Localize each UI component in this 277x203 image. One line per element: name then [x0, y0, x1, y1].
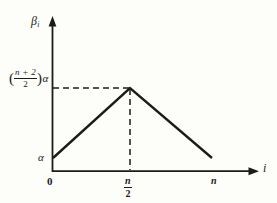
- beta-series-line: [53, 88, 212, 158]
- x-axis-label: i: [263, 162, 266, 174]
- half-n-fraction: n 2: [124, 176, 132, 199]
- x-axis: [53, 167, 260, 175]
- x-tick-label-half-n: n 2: [124, 176, 132, 199]
- y-axis-label: βi: [31, 15, 40, 29]
- peak-fraction-denominator: 2: [22, 79, 29, 89]
- peak-alpha-symbol: α: [43, 73, 49, 84]
- half-n-numerator: n: [124, 176, 132, 187]
- chart-plot-area: [0, 0, 277, 203]
- y-tick-label-peak: ( n + 2 2 ) α: [9, 68, 48, 89]
- peak-fraction: n + 2 2: [14, 68, 37, 89]
- peak-fraction-numerator: n + 2: [14, 68, 37, 78]
- origin-label: 0: [47, 176, 53, 187]
- peak-paren-close: ): [37, 71, 42, 86]
- y-axis-label-subscript: i: [37, 20, 39, 29]
- x-tick-label-n: n: [211, 176, 217, 186]
- chart-figure: βi i α 0 ( n + 2 2 ) α n 2 n: [0, 0, 277, 203]
- half-n-denominator: 2: [124, 188, 131, 199]
- y-tick-label-alpha: α: [38, 152, 44, 163]
- y-axis: [49, 16, 57, 172]
